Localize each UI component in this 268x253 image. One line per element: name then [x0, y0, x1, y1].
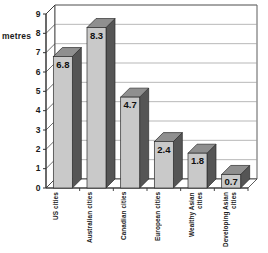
x-axis-label-5: Developing Asian cities	[222, 192, 268, 250]
y-axis-tick-label: 4	[36, 105, 41, 115]
y-axis-tick-label: 2	[36, 144, 41, 154]
bar-value-label-1: 8.3	[90, 30, 103, 41]
y-axis-tick-label: 6	[36, 67, 41, 77]
bar-value-label-0: 6.8	[56, 59, 69, 70]
bar-4: 1.8	[188, 144, 216, 188]
bar-2: 4.7	[121, 88, 149, 188]
x-axis-category-labels: US cities Australian cities Canadian cit…	[0, 192, 268, 253]
bar-0: 6.8	[53, 48, 81, 188]
y-axis-tick-label: 1	[36, 163, 41, 173]
y-axis-tick-label: 3	[36, 125, 41, 135]
y-axis-tick-label: 5	[36, 86, 41, 96]
y-axis-tick-label: 8	[36, 28, 41, 38]
y-axis-ticks: 0123456789	[36, 9, 46, 193]
y-axis-tick-label: 7	[36, 47, 41, 57]
bar-value-label-2: 4.7	[124, 99, 137, 110]
bar-value-label-5: 0.7	[225, 176, 238, 187]
bar-value-label-3: 2.4	[157, 144, 171, 155]
bar-3: 2.4	[154, 133, 182, 188]
bar-value-label-4: 1.8	[191, 155, 204, 166]
y-axis-tick-label: 9	[36, 9, 41, 19]
bar-1: 8.3	[87, 19, 115, 188]
bar-chart: metres 01234567896.88.34.72.41.80.7 US c…	[0, 0, 268, 253]
